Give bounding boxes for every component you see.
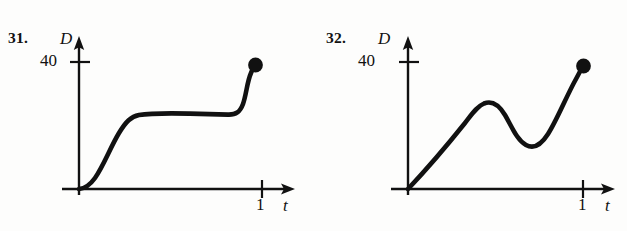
x-tick-label-1-31: 1 [256, 196, 265, 213]
x-tick-label-1-32: 1 [578, 196, 587, 213]
x-axis-label-32: t [605, 197, 610, 214]
y-axis-label-31: D [60, 30, 72, 47]
plot-area-31 [0, 0, 313, 231]
endpoint-dot-32 [576, 59, 591, 74]
figure-32: 32. D 40 1 [313, 0, 627, 231]
curve-32 [408, 67, 583, 189]
curve-31 [79, 66, 254, 189]
figure-page: 31. D 40 1 [0, 0, 627, 231]
y-tick-label-40-31: 40 [40, 52, 57, 69]
x-axis-label-31: t [283, 197, 288, 214]
y-tick-label-40-32: 40 [358, 52, 375, 69]
y-axis-label-32: D [378, 30, 390, 47]
endpoint-dot-31 [248, 58, 263, 73]
figure-31: 31. D 40 1 [0, 0, 313, 231]
